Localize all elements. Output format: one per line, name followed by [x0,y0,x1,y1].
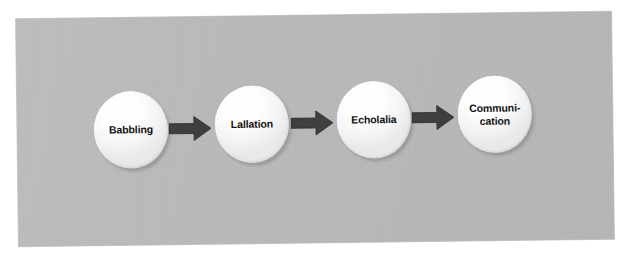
arrow-right-icon [412,104,454,131]
flow-node-communication[interactable]: Communi- cation [457,75,532,153]
flow-node-label: Echolalia [348,113,399,126]
arrow-right-icon [169,115,211,142]
flow-node-label: Communi- cation [466,101,523,127]
slide-panel: Babbling Lallation Echolalia [16,11,615,246]
flow-node-label: Babbling [106,123,156,136]
flow-node-lallation[interactable]: Lallation [214,85,289,163]
flow-node-echolalia[interactable]: Echolalia [336,81,411,159]
arrow-right-glyph [291,110,333,137]
process-flow-diagram: Babbling Lallation Echolalia [16,11,615,246]
arrow-right-glyph [169,115,211,142]
arrow-right-glyph [412,104,454,131]
flow-node-babbling[interactable]: Babbling [94,91,169,169]
arrow-right-icon [291,110,333,137]
flow-node-label: Lallation [228,118,276,131]
screenshot-canvas: Babbling Lallation Echolalia [0,0,630,261]
